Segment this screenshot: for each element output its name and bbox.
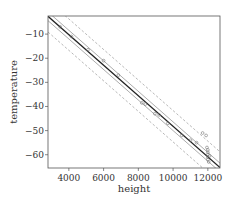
regression-line xyxy=(48,16,220,167)
y-tick-label: −40 xyxy=(25,101,44,111)
data-point xyxy=(201,132,204,135)
data-point xyxy=(205,134,208,137)
data-point xyxy=(144,103,147,106)
y-tick-label: −50 xyxy=(25,126,44,136)
plot-area xyxy=(48,1,220,184)
x-tick-label: 8000 xyxy=(127,173,150,183)
y-axis: −10−20−30−40−50−60 xyxy=(25,29,48,160)
x-tick-label: 6000 xyxy=(92,173,115,183)
prediction-upper-line xyxy=(48,1,220,152)
confidence-upper-line xyxy=(48,12,220,163)
x-axis: 4000600080001000012000 xyxy=(57,168,222,183)
scatter-chart: 4000600080001000012000 −10−20−30−40−50−6… xyxy=(0,0,233,207)
x-tick-label: 10000 xyxy=(159,173,188,183)
y-tick-label: −30 xyxy=(25,77,44,87)
prediction-lower-line xyxy=(48,32,220,183)
x-tick-label: 12000 xyxy=(194,173,223,183)
x-axis-title: height xyxy=(118,183,150,194)
confidence-lower-line xyxy=(48,21,220,172)
y-axis-title: temperature xyxy=(8,60,19,124)
y-tick-label: −60 xyxy=(25,150,44,160)
x-tick-label: 4000 xyxy=(57,173,80,183)
y-tick-label: −20 xyxy=(25,53,44,63)
y-tick-label: −10 xyxy=(25,29,44,39)
